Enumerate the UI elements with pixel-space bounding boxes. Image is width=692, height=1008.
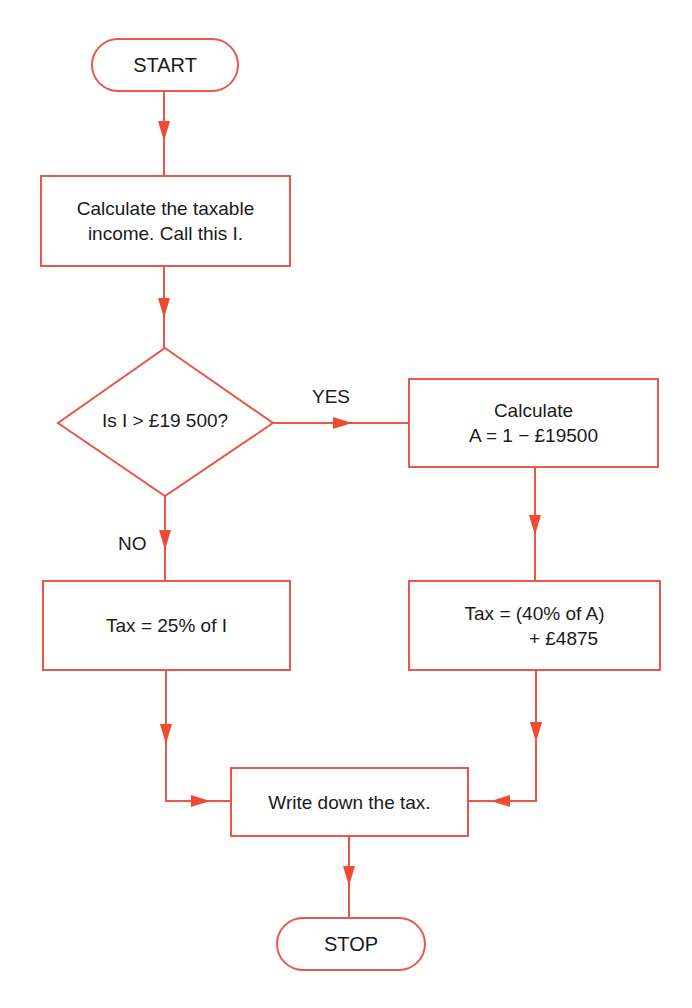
yes-label: YES [312, 386, 350, 408]
calculate-a-process: Calculate A = 1 − £19500 [408, 378, 659, 468]
arrowhead-down-icon [530, 722, 542, 742]
no-label: NO [118, 533, 147, 555]
tax-low-label: Tax = 25% of I [106, 613, 227, 638]
calculate-a-line2: A = 1 − £19500 [469, 423, 598, 448]
calculate-income-line2: income. Call this I. [88, 221, 243, 246]
calculate-a-line1: Calculate [494, 398, 573, 423]
arrowhead-down-icon [160, 724, 172, 744]
calculate-income-line1: Calculate the taxable [77, 196, 254, 221]
arrowhead-down-icon [529, 515, 541, 535]
decision-label: Is I > £19 500? [80, 410, 250, 432]
stop-label: STOP [324, 932, 378, 957]
arrowhead-down-icon [343, 866, 355, 886]
start-label: START [133, 53, 197, 78]
tax-high-line1: Tax = (40% of A) [465, 601, 605, 626]
stop-terminal: STOP [276, 917, 426, 971]
arrowhead-left-icon [491, 795, 510, 807]
tax-high-rate-process: Tax = (40% of A) + £4875 [408, 580, 661, 671]
arrowhead-right-icon [191, 795, 210, 807]
calculate-income-process: Calculate the taxable income. Call this … [40, 175, 291, 267]
write-tax-process: Write down the tax. [230, 767, 469, 837]
arrowhead-down-icon [158, 121, 170, 141]
start-terminal: START [91, 38, 239, 92]
tax-high-line2: + £4875 [471, 626, 598, 651]
arrowhead-right-icon [333, 417, 352, 429]
flowchart-connectors [0, 0, 692, 1008]
write-tax-label: Write down the tax. [268, 790, 430, 815]
arrowhead-down-icon [158, 298, 170, 318]
arrowhead-down-icon [159, 530, 171, 550]
connector-tax40-to-write [468, 670, 536, 801]
tax-low-rate-process: Tax = 25% of I [42, 580, 291, 671]
connector-tax25-to-write [166, 670, 230, 801]
